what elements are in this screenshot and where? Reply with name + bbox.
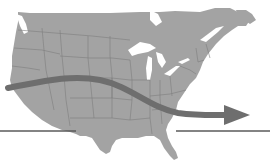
map-figure [0,0,270,164]
east-coast-water [222,42,236,50]
arrow-head-icon [224,105,250,125]
us-map [0,0,270,164]
